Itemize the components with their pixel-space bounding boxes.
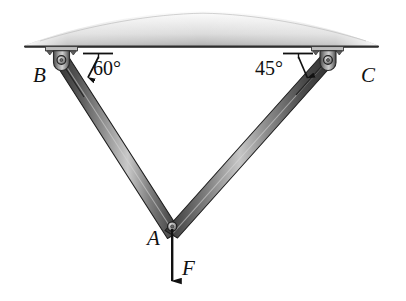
member-AB (56, 56, 181, 239)
label-point-A: A (147, 228, 160, 249)
ceiling-slab-fade (25, 11, 378, 48)
label-point-C: C (361, 65, 375, 86)
member-AB-highlight (63, 61, 176, 235)
label-angle-right: 45° (255, 58, 283, 78)
statics-figure: B C A F 60° 45° (0, 0, 406, 301)
label-angle-left: 60° (93, 58, 121, 78)
member-AC (165, 56, 334, 239)
member-AB-body (56, 56, 181, 239)
support-C-fastener-left (313, 51, 320, 55)
support-B-pin-center (60, 59, 63, 62)
support-C-plate (312, 47, 344, 51)
figure-canvas (0, 0, 406, 301)
label-force-F: F (182, 258, 195, 279)
joint-A-pin-center (171, 225, 174, 228)
support-C-fastener-right (336, 51, 343, 55)
label-point-B: B (33, 65, 46, 86)
support-C-pin-center (327, 59, 330, 62)
member-AC-body (165, 56, 334, 239)
ceiling-group (25, 11, 378, 48)
support-B-fastener-left (47, 51, 54, 55)
support-B-plate (46, 47, 78, 51)
angle-right-arrow (299, 57, 308, 78)
support-B-fastener-right (70, 51, 77, 55)
